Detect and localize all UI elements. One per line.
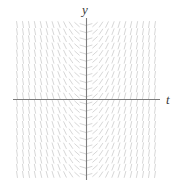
- slope-mark: [118, 79, 120, 85]
- slope-mark: [34, 114, 35, 120]
- slope-mark: [58, 93, 60, 99]
- slope-mark: [124, 36, 126, 42]
- slope-mark: [93, 37, 98, 41]
- slope-mark: [40, 22, 41, 28]
- slope-mark: [130, 136, 131, 142]
- slope-mark: [93, 172, 98, 176]
- slope-mark: [58, 86, 60, 92]
- slope-mark: [80, 116, 86, 118]
- slope-mark: [99, 79, 102, 84]
- slope-mark: [23, 164, 24, 170]
- slope-mark: [17, 136, 18, 142]
- slope-mark: [75, 144, 80, 148]
- slope-mark: [124, 43, 126, 49]
- slope-mark: [149, 157, 150, 163]
- slope-mark: [124, 72, 126, 78]
- slope-mark: [52, 136, 54, 142]
- slope-mark: [28, 114, 29, 120]
- slope-mark: [17, 107, 18, 113]
- slope-mark: [75, 115, 80, 119]
- slope-mark: [80, 166, 86, 168]
- slope-mark: [23, 121, 24, 127]
- slope-mark: [124, 29, 126, 35]
- slope-mark: [64, 157, 67, 163]
- slope-mark: [155, 136, 156, 142]
- slope-mark: [155, 43, 156, 49]
- slope-mark: [136, 150, 137, 156]
- slope-mark: [64, 65, 67, 71]
- slope-mark: [93, 58, 98, 62]
- slope-mark: [155, 50, 156, 56]
- slope-mark: [75, 44, 80, 48]
- slope-mark: [99, 51, 102, 56]
- slope-mark: [69, 79, 72, 84]
- slope-mark: [64, 143, 67, 149]
- slope-field-canvas: [0, 0, 178, 187]
- slope-mark: [118, 36, 120, 42]
- slope-mark: [99, 86, 102, 91]
- slope-mark: [23, 114, 24, 120]
- slope-mark: [75, 80, 80, 84]
- slope-mark: [69, 51, 72, 56]
- slope-mark: [99, 150, 102, 155]
- slope-mark: [28, 129, 29, 135]
- slope-mark: [124, 157, 126, 163]
- slope-mark: [28, 50, 29, 56]
- slope-mark: [40, 36, 41, 42]
- slope-mark: [64, 136, 67, 142]
- slope-mark: [64, 22, 67, 28]
- slope-mark: [34, 86, 35, 92]
- slope-mark: [34, 100, 35, 106]
- axes-group: [13, 18, 160, 180]
- slope-mark: [64, 50, 67, 56]
- slope-mark: [112, 164, 114, 170]
- slope-mark: [23, 79, 24, 85]
- slope-mark: [118, 122, 120, 128]
- slope-mark: [80, 131, 86, 133]
- slope-mark: [46, 57, 48, 63]
- slope-mark: [106, 150, 109, 156]
- slope-mark: [93, 94, 98, 98]
- slope-mark: [136, 93, 137, 99]
- slope-mark: [46, 157, 48, 163]
- slope-mark: [149, 79, 150, 85]
- slope-mark: [46, 150, 48, 156]
- slope-mark: [34, 29, 35, 35]
- slope-mark: [58, 22, 60, 28]
- slope-mark: [124, 136, 126, 142]
- slope-mark: [52, 107, 54, 113]
- slope-mark: [142, 29, 143, 35]
- slope-mark: [136, 43, 137, 49]
- slope-mark: [69, 36, 72, 41]
- slope-mark: [99, 22, 102, 27]
- slope-mark: [52, 86, 54, 92]
- slope-mark: [17, 36, 18, 42]
- slope-mark: [149, 114, 150, 120]
- slope-mark: [28, 136, 29, 142]
- slope-mark: [23, 43, 24, 49]
- slope-mark: [99, 108, 102, 113]
- slope-mark: [34, 50, 35, 56]
- slope-mark: [52, 29, 54, 35]
- slope-mark: [112, 114, 114, 120]
- slope-mark: [99, 115, 102, 120]
- slope-mark: [124, 114, 126, 120]
- slope-mark: [69, 158, 72, 163]
- slope-mark: [46, 143, 48, 149]
- slope-mark: [40, 150, 41, 156]
- slope-mark: [34, 64, 35, 70]
- slope-mark: [75, 58, 80, 62]
- y-axis-label: y: [82, 3, 88, 16]
- slope-mark: [40, 93, 41, 99]
- slope-mark: [106, 136, 109, 142]
- slope-mark: [64, 43, 67, 49]
- slope-mark: [155, 129, 156, 135]
- slope-mark: [64, 86, 67, 92]
- slope-mark: [46, 164, 48, 170]
- slope-mark: [52, 171, 54, 177]
- slope-mark: [93, 122, 98, 126]
- slope-mark: [52, 22, 54, 28]
- slope-mark: [34, 57, 35, 63]
- slope-mark: [34, 121, 35, 127]
- slope-mark: [52, 36, 54, 42]
